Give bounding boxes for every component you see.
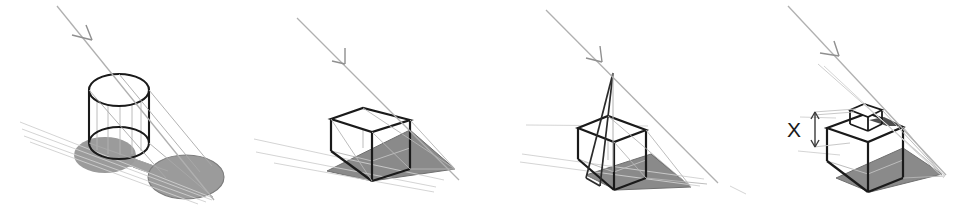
cube-shadow (327, 130, 455, 181)
stacked-cubes-diagram: X (730, 0, 974, 209)
panel-cube (244, 0, 488, 209)
cube-pole-diagram (488, 0, 732, 209)
ground-light-rays (730, 117, 840, 194)
panel-cylinder (0, 0, 244, 209)
cylinder-diagram (0, 0, 244, 209)
panel-cube-with-pole (488, 0, 732, 209)
dimension-arrow (811, 112, 819, 147)
dimension-label-x: X (787, 118, 801, 141)
figure-strip: X (0, 0, 974, 209)
light-ray-main (57, 6, 214, 200)
light-ray-arrowhead (586, 46, 602, 62)
light-ray-arrowhead (332, 48, 345, 64)
panel-stacked-cubes: X (730, 0, 974, 209)
light-ray-main (546, 10, 718, 183)
cube-diagram (244, 0, 488, 209)
